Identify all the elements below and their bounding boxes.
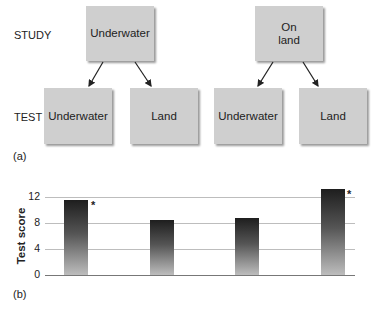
significance-marker: * — [347, 188, 351, 200]
gridline-8 — [45, 223, 355, 224]
x-axis-line — [45, 275, 355, 276]
bar-study-underwater-test-land — [150, 220, 174, 275]
y-tick: 4 — [26, 242, 40, 254]
y-axis-label: Test score — [15, 201, 27, 271]
bar-study-underwater-test-underwater — [64, 200, 88, 275]
panel-a-label: (a) — [13, 150, 26, 162]
arrows — [0, 0, 385, 160]
y-tick: 8 — [26, 216, 40, 228]
arrow-icon — [89, 62, 103, 86]
y-tick: 0 — [26, 268, 40, 280]
significance-marker: * — [91, 199, 95, 211]
arrow-icon — [135, 62, 151, 86]
arrow-icon — [258, 62, 273, 86]
bar-study-land-test-underwater — [235, 218, 259, 275]
panel-b-label: (b) — [13, 288, 26, 300]
gridline-4 — [45, 249, 355, 250]
arrow-icon — [303, 62, 318, 86]
y-tick: 12 — [26, 190, 40, 202]
gridline-12 — [45, 197, 355, 198]
bar-study-land-test-land — [321, 189, 345, 275]
